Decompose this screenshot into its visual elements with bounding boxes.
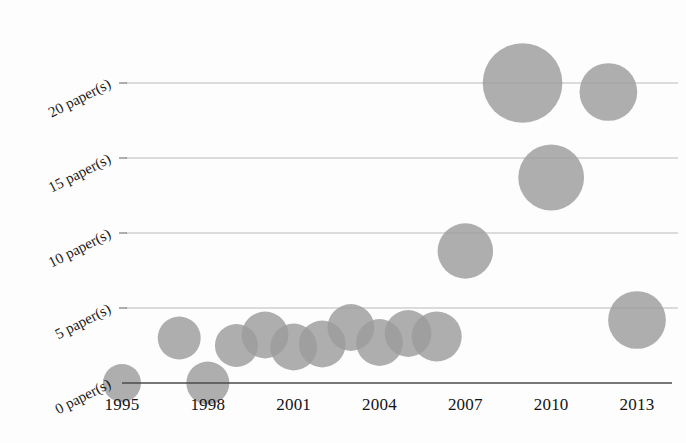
y-tick-label-5: 5 paper(s) <box>52 300 114 343</box>
x-tick-label-2004: 2004 <box>362 395 397 414</box>
x-tick-label-1995: 1995 <box>105 395 140 414</box>
tick-marks-group <box>119 83 127 308</box>
bubble-point <box>518 145 584 211</box>
y-tick-label-15: 15 paper(s) <box>46 150 114 196</box>
bubble-point <box>438 223 493 278</box>
x-axis-tick-labels: 1995199820012004200720102013 <box>105 395 655 414</box>
y-tick-label-10: 10 paper(s) <box>46 225 114 271</box>
y-axis-tick-labels: 0 paper(s)5 paper(s)10 paper(s)15 paper(… <box>46 75 114 418</box>
bubble-point <box>580 63 638 121</box>
x-tick-label-1998: 1998 <box>190 395 225 414</box>
x-tick-label-2013: 2013 <box>620 395 655 414</box>
bubble-point <box>412 312 462 362</box>
bubbles-group <box>103 43 666 404</box>
bubble-chart-figure: 0 paper(s)5 paper(s)10 paper(s)15 paper(… <box>0 0 686 443</box>
x-tick-label-2001: 2001 <box>276 395 311 414</box>
y-tick-label-20: 20 paper(s) <box>46 75 114 121</box>
x-tick-label-2010: 2010 <box>534 395 569 414</box>
chart-canvas: 0 paper(s)5 paper(s)10 paper(s)15 paper(… <box>0 0 686 443</box>
bubble-point <box>483 43 563 123</box>
bubble-point <box>608 291 666 349</box>
bubble-point <box>158 317 201 360</box>
x-tick-label-2007: 2007 <box>448 395 483 414</box>
